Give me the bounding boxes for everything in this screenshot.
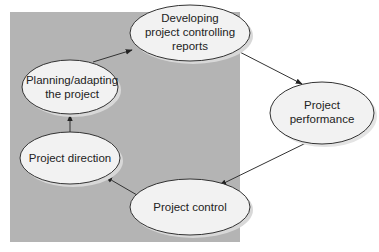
node-label: Project control bbox=[153, 201, 227, 213]
node-label: Developing bbox=[161, 12, 219, 24]
node-label: Planning/adapting bbox=[26, 74, 118, 86]
node-label: Project bbox=[304, 99, 341, 111]
node-label: project controlling bbox=[145, 26, 235, 38]
node-label: performance bbox=[290, 113, 355, 125]
cycle-diagram: Developing project controlling reports P… bbox=[0, 0, 379, 252]
node-label: the project bbox=[45, 88, 100, 100]
node-performance: Project performance bbox=[270, 82, 377, 147]
node-label: Project direction bbox=[29, 152, 111, 164]
node-label: reports bbox=[172, 40, 208, 52]
